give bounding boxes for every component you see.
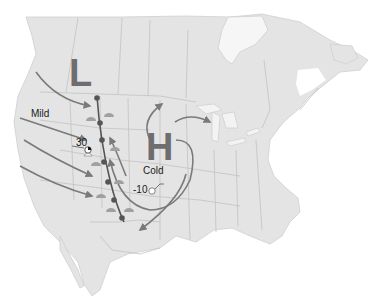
low-pressure-label: L: [69, 54, 92, 92]
air-mass-label-mild: Mild: [31, 108, 49, 119]
temperature-label-minus10: -10: [133, 184, 147, 195]
temperature-label-30: 30: [76, 137, 87, 148]
high-pressure-label: H: [146, 128, 173, 166]
air-mass-label-cold: Cold: [143, 165, 164, 176]
weather-map: [0, 0, 377, 299]
